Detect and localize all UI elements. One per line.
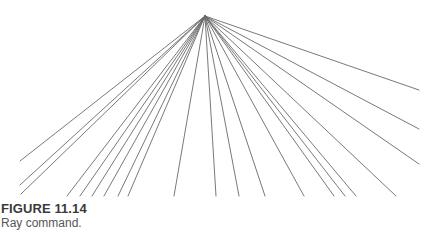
ray-line [21,16,205,194]
ray-line [205,16,419,90]
ray-line [205,16,334,196]
ray-line [67,16,205,196]
ray-line [205,16,419,164]
figure-caption: FIGURE 11.14 Ray command. [1,201,87,231]
figure-label: FIGURE 11.14 [1,201,87,216]
ray-line [205,16,304,196]
ray-line [92,16,205,196]
ray-line [20,16,205,161]
ray-line [205,16,356,196]
ray-line [205,16,345,196]
ray-line [128,16,205,196]
ray-fan-diagram [0,0,440,200]
figure-caption-text: Ray command. [1,216,87,231]
ray-line [118,16,205,196]
ray-line [20,16,205,185]
ray-line [80,16,205,196]
